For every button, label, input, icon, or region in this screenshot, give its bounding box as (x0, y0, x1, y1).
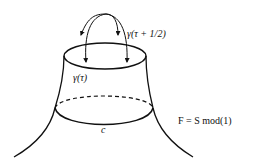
arrow-outer-arc (86, 14, 127, 62)
curve-c-front (55, 108, 153, 125)
tube-left-side (55, 56, 64, 108)
tube-right-side (146, 56, 153, 108)
curve-c-back-dashed (55, 96, 153, 108)
arrow-inner-arc (81, 14, 118, 35)
surface-diagram: γ(τ + 1/2) γ(τ) c F = S mod(1) (0, 0, 256, 167)
label-gamma: γ(τ) (73, 72, 88, 84)
label-curve-c: c (101, 124, 106, 135)
top-boundary-ellipse (64, 43, 146, 69)
label-formula: F = S mod(1) (178, 115, 232, 127)
label-gamma-shift: γ(τ + 1/2) (127, 28, 166, 40)
surface-left-flare (14, 108, 55, 157)
